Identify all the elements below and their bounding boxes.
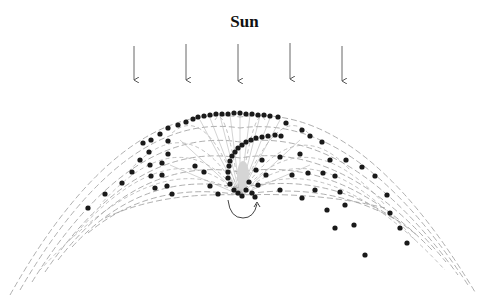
bright-spot xyxy=(237,161,249,189)
parabola-diagram xyxy=(0,0,489,305)
sun-ray-arrows xyxy=(134,43,342,81)
radial-mesh xyxy=(40,117,445,270)
rotation-arrow-icon xyxy=(228,200,257,218)
outer-dots xyxy=(85,140,409,245)
spiral-dots xyxy=(225,132,283,199)
